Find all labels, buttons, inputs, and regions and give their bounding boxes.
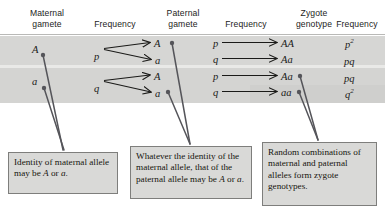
caption-paternal-allele: Whatever the identity of the maternal al…: [130, 146, 252, 199]
arrow-p-to-A: [104, 43, 150, 49]
leader-dot-zygote-aa: [297, 90, 301, 94]
leader-zygote-aa: [299, 92, 318, 140]
caption-text: Whatever the identity of the maternal al…: [136, 151, 244, 184]
leader-dot-maternal-a: [42, 86, 46, 90]
leader-dot-paternal-A: [170, 41, 174, 45]
leader-paternal-A: [172, 43, 190, 144]
leader-zygote-Aa: [300, 76, 318, 140]
leader-dots: [41, 41, 302, 94]
caption-maternal-allele: Identity of maternal allele may be A or …: [8, 152, 118, 194]
arrow-p-to-a: [104, 50, 151, 60]
arrow-q-to-A: [104, 75, 150, 81]
caption-text: Random combinations of maternal and pate…: [268, 147, 361, 191]
figure-canvas: Maternal gamete Frequency Paternal gamet…: [0, 0, 385, 217]
caption-text: Identity of maternal allele may be A or …: [14, 157, 109, 178]
leader-dot-maternal-A: [41, 53, 45, 57]
leader-dot-zygote-Aa: [298, 74, 302, 78]
caption-zygote-genotype: Random combinations of maternal and pate…: [262, 142, 377, 206]
leader-maternal-a: [44, 88, 64, 150]
leader-dot-paternal-a: [166, 90, 170, 94]
leader-paternal-a: [168, 92, 190, 144]
arrow-q-to-a: [104, 82, 151, 93]
